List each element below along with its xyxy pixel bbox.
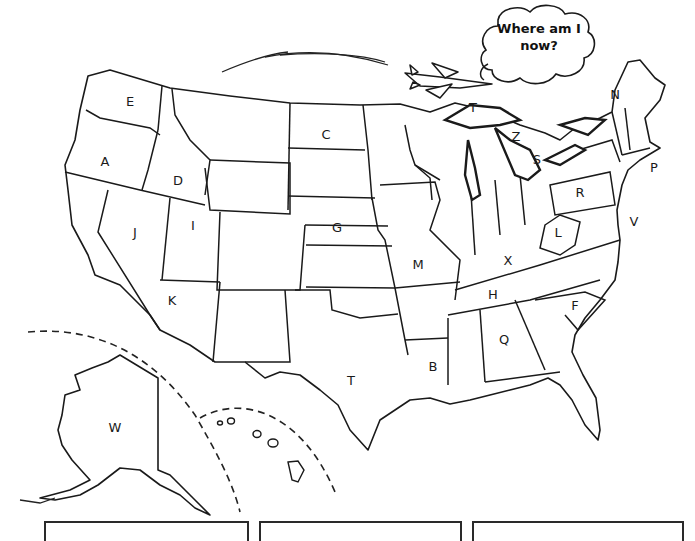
map-label-r: R <box>575 186 584 199</box>
answer-box-3[interactable] <box>472 521 684 541</box>
map-label-l: L <box>554 226 561 239</box>
speech-bubble-text: Where am I now? <box>494 20 584 54</box>
map-label-m: M <box>412 258 423 271</box>
airplane-icon <box>405 63 492 98</box>
map-label-i: I <box>191 219 195 232</box>
map-label-z: Z <box>512 130 521 143</box>
map-label-h: H <box>488 288 498 301</box>
map-label-e: E <box>126 95 134 108</box>
map-label-s: S <box>533 153 541 166</box>
map-label-w: W <box>109 421 122 434</box>
map-label-n: N <box>610 88 620 101</box>
answer-box-2[interactable] <box>259 521 462 541</box>
answer-box-1[interactable] <box>44 521 249 541</box>
map-label-t-south: T <box>347 374 355 387</box>
map-label-x: X <box>504 254 513 267</box>
map-label-d: D <box>173 174 183 187</box>
map-label-b: B <box>429 360 438 373</box>
map-label-f: F <box>571 299 578 312</box>
speech-bubble-line-1: Where am I <box>494 20 584 37</box>
flight-arcs <box>222 52 388 72</box>
map-label-c: C <box>321 128 330 141</box>
map-label-p: P <box>650 161 658 174</box>
alaska <box>20 355 210 515</box>
map-label-k: K <box>168 294 177 307</box>
hawaii <box>218 418 305 482</box>
map-label-a: A <box>101 155 110 168</box>
map-label-q: Q <box>499 333 509 346</box>
map-label-t-north: T <box>469 101 477 114</box>
map-label-v: V <box>630 215 639 228</box>
speech-bubble-line-2: now? <box>494 37 584 54</box>
map-label-j: J <box>133 226 137 239</box>
map-label-g: G <box>332 221 342 234</box>
